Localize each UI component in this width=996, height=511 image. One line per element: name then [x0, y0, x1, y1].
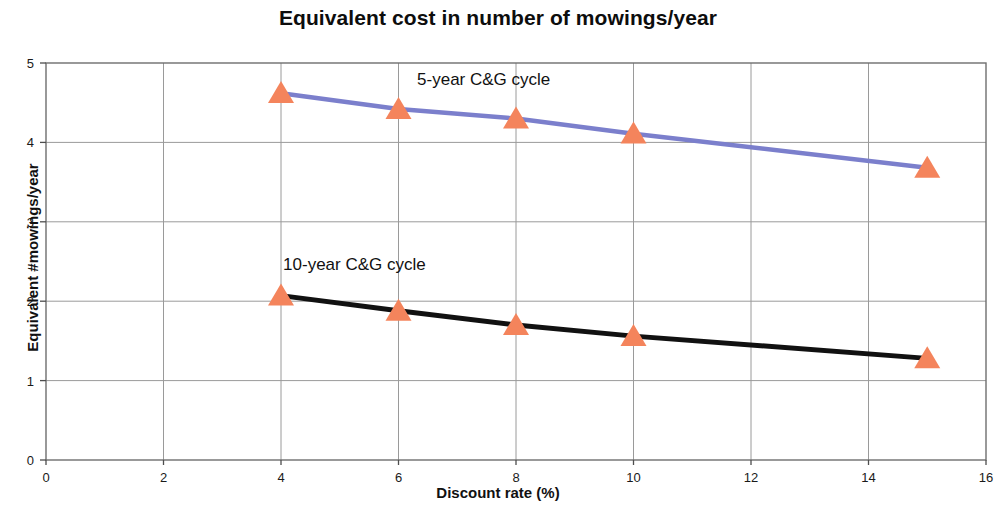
chart-container: Equivalent cost in number of mowings/yea…	[0, 0, 996, 511]
series-annotation-label: 5-year C&G cycle	[417, 70, 550, 89]
data-markers-layer	[268, 81, 940, 368]
y-axis-label: Equivalent #mowings/year	[24, 123, 41, 393]
x-tick-label: 10	[626, 470, 640, 485]
chart-plot-area: 0123450246810121416 5-year C&G cycle10-y…	[0, 0, 996, 511]
x-tick-label: 16	[979, 470, 993, 485]
x-axis-label: Discount rate (%)	[0, 484, 996, 501]
x-tick-label: 14	[861, 470, 875, 485]
y-tick-label: 0	[27, 453, 34, 468]
x-tick-label: 4	[277, 470, 284, 485]
y-tick-label: 5	[27, 56, 34, 71]
x-tick-label: 8	[512, 470, 519, 485]
series-line	[281, 93, 927, 168]
series-annotation-label: 10-year C&G cycle	[283, 255, 426, 274]
x-tick-label: 12	[744, 470, 758, 485]
x-tick-label: 6	[395, 470, 402, 485]
data-point-marker	[268, 81, 294, 103]
data-series-layer	[281, 93, 927, 358]
x-tick-label: 0	[42, 470, 49, 485]
x-tick-label: 2	[160, 470, 167, 485]
series-line	[281, 296, 927, 359]
